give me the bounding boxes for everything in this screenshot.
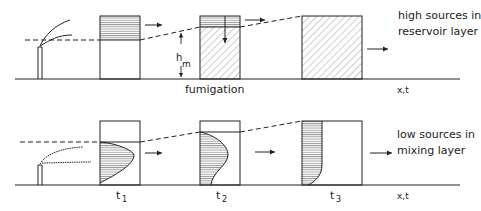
time-sub-1: 1 bbox=[122, 195, 127, 204]
time-sub-3: 3 bbox=[336, 195, 341, 204]
time-label-t3: t bbox=[330, 189, 335, 202]
top-panel: h m high sources in reservoir layer fumi… bbox=[15, 9, 481, 96]
bottom-description-line2: mixing layer bbox=[397, 144, 466, 157]
bottom-axis-label: x,t bbox=[397, 191, 409, 201]
chimney-icon bbox=[38, 165, 42, 185]
height-label-m: m bbox=[182, 59, 191, 69]
top-axis-label: x,t bbox=[397, 85, 409, 95]
plume-upper bbox=[40, 147, 83, 164]
chimney-icon bbox=[38, 47, 42, 79]
profile-box-t2 bbox=[200, 121, 240, 185]
time-label-t2: t bbox=[216, 189, 221, 202]
mixing-height-dashed bbox=[140, 132, 200, 142]
top-description-line2: reservoir layer bbox=[398, 25, 478, 38]
mixing-height-dashed bbox=[240, 16, 302, 27]
top-description-line1: high sources in bbox=[398, 9, 481, 22]
bottom-panel: low sources in mixing layer t 1 t 2 t 3 … bbox=[15, 121, 475, 204]
mixing-height-dashed bbox=[140, 27, 200, 40]
profile-box-1 bbox=[100, 16, 140, 79]
profile-box-t1 bbox=[100, 121, 140, 185]
plume-lower bbox=[42, 162, 91, 163]
profile-box-3 bbox=[302, 16, 362, 79]
fumigation-label: fumigation bbox=[185, 83, 244, 96]
time-sub-2: 2 bbox=[222, 195, 227, 204]
bottom-description-line1: low sources in bbox=[397, 128, 475, 141]
diagram-canvas: h m high sources in reservoir layer fumi… bbox=[0, 0, 481, 211]
profile-box-2 bbox=[200, 16, 240, 79]
profile-box-t3 bbox=[302, 121, 362, 185]
mixing-height-dashed bbox=[240, 121, 302, 132]
time-label-t1: t bbox=[116, 189, 121, 202]
height-indicator: h m bbox=[176, 33, 191, 77]
plume-upper bbox=[40, 20, 70, 46]
